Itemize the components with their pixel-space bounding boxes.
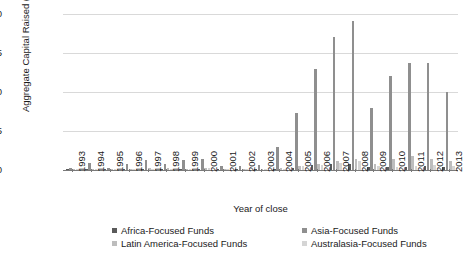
legend-item[interactable]: Latin America-Focused Funds — [112, 238, 302, 249]
x-axis-tick-label: 1993 — [76, 151, 87, 172]
x-axis-tick-label: 2003 — [265, 151, 276, 172]
y-axis-tick-label: 0.0 — [0, 164, 2, 175]
bar — [446, 92, 449, 170]
x-axis-tick — [411, 169, 412, 172]
y-axis-tick-label: 90.0 — [0, 8, 2, 19]
bar — [370, 108, 373, 170]
x-axis-tick — [449, 169, 450, 172]
x-axis-tick-label: 2013 — [453, 151, 464, 172]
bar-group — [101, 14, 120, 170]
x-axis-tick — [279, 169, 280, 172]
legend-swatch-icon — [112, 241, 117, 246]
x-axis-tick-label: 1998 — [170, 151, 181, 172]
bar-group — [82, 14, 101, 170]
x-axis-tick-label: 1999 — [189, 151, 200, 172]
x-axis-tick — [166, 169, 167, 172]
x-axis-tick — [336, 169, 337, 172]
x-axis-tick-label: 2004 — [283, 151, 294, 172]
plot-area — [63, 14, 458, 170]
x-axis-tick — [242, 169, 243, 172]
bar-group — [251, 14, 270, 170]
bar-group — [138, 14, 157, 170]
bar-chart: Aggregate Capital Raised ($bn) 0.022.545… — [0, 0, 471, 257]
x-axis-tick — [355, 169, 356, 172]
x-axis-tick-label: 2010 — [396, 151, 407, 172]
bar-group — [402, 14, 421, 170]
x-axis-tick-label: 2008 — [359, 151, 370, 172]
legend-swatch-icon — [302, 228, 307, 233]
legend-swatch-icon — [112, 228, 117, 233]
legend-item[interactable]: Africa-Focused Funds — [112, 225, 302, 236]
legend-label: Africa-Focused Funds — [121, 225, 214, 236]
y-axis-tick-label: 22.5 — [0, 125, 2, 136]
chart-legend: Africa-Focused FundsAsia-Focused FundsLa… — [112, 224, 442, 250]
bar — [411, 156, 414, 170]
bar-group — [289, 14, 308, 170]
bar-group — [157, 14, 176, 170]
bar-group — [213, 14, 232, 170]
bar-group — [420, 14, 439, 170]
bar — [427, 63, 430, 170]
bar-group — [232, 14, 251, 170]
bar — [408, 63, 411, 170]
bar-group — [345, 14, 364, 170]
legend-label: Asia-Focused Funds — [311, 225, 398, 236]
bar-group — [119, 14, 138, 170]
x-axis-tick-label: 2005 — [302, 151, 313, 172]
x-axis-title: Year of close — [63, 203, 458, 214]
legend-swatch-icon — [302, 241, 307, 246]
x-axis-tick — [148, 169, 149, 172]
x-axis-tick-label: 2011 — [415, 152, 426, 172]
bar-group — [270, 14, 289, 170]
x-axis-tick — [110, 169, 111, 172]
x-axis-tick-label: 1996 — [133, 151, 144, 172]
x-axis-tick — [91, 169, 92, 172]
x-axis-tick-label: 2009 — [377, 151, 388, 172]
legend-label: Latin America-Focused Funds — [121, 238, 247, 249]
x-axis-tick — [317, 169, 318, 172]
x-axis-tick-label: 2006 — [321, 151, 332, 172]
bar-group — [63, 14, 82, 170]
x-axis-tick — [223, 169, 224, 172]
x-axis-tick-label: 1994 — [95, 151, 106, 172]
x-axis-tick-label: 2012 — [434, 151, 445, 172]
legend-item[interactable]: Asia-Focused Funds — [302, 225, 452, 236]
x-axis-tick-label: 2002 — [246, 151, 257, 172]
x-axis-tick — [392, 169, 393, 172]
legend-item[interactable]: Australasia-Focused Funds — [302, 238, 452, 249]
x-axis-tick-label: 1997 — [152, 151, 163, 172]
bar — [276, 147, 279, 170]
legend-label: Australasia-Focused Funds — [311, 238, 427, 249]
x-axis-tick — [72, 169, 73, 172]
x-axis-tick — [261, 169, 262, 172]
x-axis-tick — [129, 169, 130, 172]
bar-group — [364, 14, 383, 170]
bar — [295, 113, 298, 170]
x-axis-tick-label: 1995 — [114, 151, 125, 172]
bar — [333, 37, 336, 170]
bar-groups — [63, 14, 458, 170]
y-axis-tick-label: 45.0 — [0, 86, 2, 97]
bar-group — [439, 14, 458, 170]
x-axis-tick — [204, 169, 205, 172]
bar — [314, 69, 317, 170]
y-axis-title: Aggregate Capital Raised ($bn) — [20, 0, 31, 131]
x-axis-tick-label: 2000 — [208, 151, 219, 172]
y-axis-tick-label: 67.5 — [0, 47, 2, 58]
bar-group — [326, 14, 345, 170]
bar-group — [308, 14, 327, 170]
bar — [352, 21, 355, 170]
bar — [389, 76, 392, 170]
x-axis-tick — [298, 169, 299, 172]
bar-group — [176, 14, 195, 170]
x-axis-tick — [430, 169, 431, 172]
x-axis-tick — [185, 169, 186, 172]
x-axis-tick — [373, 169, 374, 172]
x-axis-tick-label: 2001 — [227, 151, 238, 172]
x-axis-tick-label: 2007 — [340, 151, 351, 172]
bar-group — [195, 14, 214, 170]
bar-group — [383, 14, 402, 170]
